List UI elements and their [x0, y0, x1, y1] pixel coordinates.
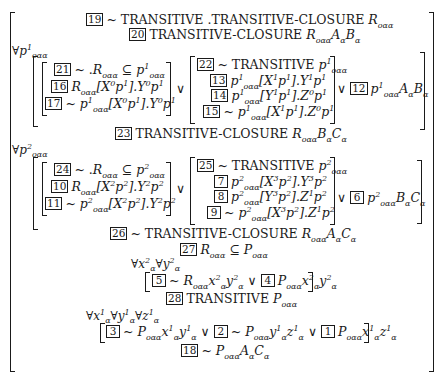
- proof-line-18: 18~ PoααAαCα: [181, 344, 269, 358]
- forall-p1: ∀p1oαα: [12, 44, 48, 58]
- line-number-box: 9: [207, 206, 221, 219]
- proof-line-8: 8p2oαα[Y3p2].Z1p2: [214, 190, 327, 204]
- line-number-box: 11: [45, 197, 62, 210]
- line-number-box: 16: [51, 80, 68, 93]
- proof-line-27: 27Roαα ⊆ Poαα: [180, 243, 268, 257]
- forall-p2: ∀p2oαα: [12, 143, 48, 157]
- line-number-box: 4: [261, 274, 275, 287]
- proof-line-21: 21~ .Roαα ⊆ p1oαα: [54, 63, 165, 77]
- proof-line-11: 11~ p2oαα[X2p2].Y2p2: [45, 197, 176, 211]
- proof-line-19: 19~ TRANSITIVE .TRANSITIVE-CLOSURE Roαα: [86, 13, 393, 27]
- line-number-box: 22: [197, 58, 214, 71]
- l3-2-1-bracket-open: [100, 323, 105, 343]
- proof-line-5-4: 5~ Roααx2αy2α ∨ 4Poααx2αy2α: [152, 274, 337, 288]
- outer-right-bracket: [429, 12, 434, 372]
- right1-bracket-open: [190, 56, 195, 124]
- or-symbol: ∨: [176, 182, 185, 196]
- l5-4-bracket-open: [145, 272, 150, 292]
- line-number-box: 17: [45, 97, 62, 110]
- proof-line-16: 16Roαα[X0p1].Y0p1: [51, 80, 164, 94]
- line-number-box: 19: [86, 13, 103, 26]
- proof-line-3-2-1: 3~ Poααx1αy1α ∨ 2~ Poααy1αz1α ∨ 1Poααx1α…: [106, 325, 397, 339]
- proof-line-7: 7p2oαα[X3p2].Y3p2: [214, 175, 327, 189]
- line-number-box: 20: [129, 28, 146, 41]
- line-number-box: 28: [166, 292, 183, 305]
- proof-line-9: 9~ p2oαα[X3p2].Z1p2: [207, 206, 335, 220]
- proof-line-24: 24~ .Roαα ⊆ p2oαα: [54, 163, 165, 177]
- line-number-box: 14: [211, 89, 228, 102]
- line-number-box: 10: [51, 180, 68, 193]
- forall-x1-y1-z1: ∀x1α∀y1α∀z1α: [86, 309, 159, 323]
- proof-line-28: 28TRANSITIVE Poαα: [166, 292, 297, 306]
- proof-line-12: ∨ 12p1oααAαBα: [337, 82, 428, 96]
- line-number-box: 2: [214, 325, 228, 338]
- line-number-box: 7: [214, 175, 228, 188]
- proof-line-20: 20TRANSITIVE-CLOSURE RoααAαBα: [129, 28, 360, 42]
- proof-line-14: 14p1oαα[Y1p1].Z0p1: [211, 89, 327, 103]
- or-symbol: ∨: [248, 273, 257, 288]
- line-number-box: 8: [214, 190, 228, 203]
- line-number-box: 27: [180, 243, 197, 256]
- line-number-box: 23: [115, 127, 132, 140]
- forall-x2-y2: ∀x2α∀y2α: [131, 257, 180, 271]
- proof-line-10: 10Roαα[X2p2].Y2p2: [51, 180, 164, 194]
- proof-line-6: ∨ 6p2oααBαCα: [337, 191, 425, 205]
- line-number-box: 21: [54, 63, 71, 76]
- or-symbol: ∨: [337, 190, 346, 205]
- proof-line-26: 26~ TRANSITIVE-CLOSURE RoααAαCα: [110, 227, 356, 241]
- right2-bracket-open: [190, 157, 195, 225]
- line-number-box: 3: [106, 325, 120, 338]
- line-number-box: 25: [197, 159, 214, 172]
- proof-line-23: 23TRANSITIVE-CLOSURE RoααBαCα: [115, 127, 347, 141]
- line-number-box: 13: [210, 74, 227, 87]
- line-number-box: 24: [54, 163, 71, 176]
- line-number-box: 6: [350, 191, 364, 204]
- proof-line-17: 17~ p1oαα[X0p1].Y0p1: [45, 97, 176, 111]
- line-number-box: 5: [152, 274, 166, 287]
- or-symbol: ∨: [337, 81, 346, 96]
- line-number-box: 12: [350, 82, 367, 95]
- proof-line-13: 13p1oαα[X1p1].Y1p1: [210, 74, 326, 88]
- line-number-box: 18: [181, 344, 198, 357]
- line-number-box: 26: [110, 227, 127, 240]
- proof-line-25: 25~ TRANSITIVE p2oαα: [197, 159, 347, 173]
- line-number-box: 15: [203, 105, 220, 118]
- group2-left-bracket: [33, 157, 38, 230]
- or-symbol: ∨: [176, 82, 185, 96]
- group1-left-bracket: [33, 56, 38, 127]
- line-number-box: 1: [321, 325, 335, 338]
- proof-line-15: 15~ p1oαα[X1p1].Z0p1: [203, 105, 334, 119]
- or-symbol: ∨: [308, 324, 317, 339]
- outer-left-bracket: [10, 12, 15, 372]
- or-symbol: ∨: [201, 324, 210, 339]
- proof-line-22: 22~ TRANSITIVE p1oαα: [197, 58, 347, 72]
